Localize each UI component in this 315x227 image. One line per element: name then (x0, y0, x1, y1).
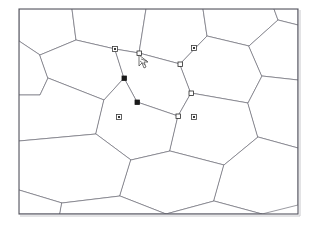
handle-vertex-se[interactable] (176, 114, 181, 119)
handle-vertex-sw[interactable] (135, 100, 140, 105)
anchor-point-1[interactable] (113, 47, 118, 52)
tessellation-group[interactable] (19, 9, 298, 214)
application-root (0, 0, 315, 227)
handle-vertex-ne[interactable] (178, 62, 183, 67)
handle-vertex-e[interactable] (189, 91, 194, 96)
anchor-point-3[interactable] (117, 115, 122, 120)
anchor-point-2[interactable] (192, 46, 197, 51)
drawing-canvas[interactable] (0, 0, 315, 227)
anchor-point-4[interactable] (192, 115, 197, 120)
canvas-viewport[interactable] (0, 0, 315, 227)
handle-vertex-w[interactable] (122, 76, 127, 81)
